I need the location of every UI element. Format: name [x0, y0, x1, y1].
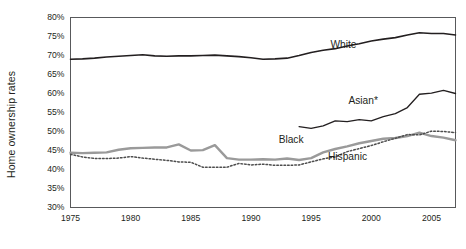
x-tick-label: 1975: [51, 213, 91, 223]
x-tick-label: 1995: [291, 213, 331, 223]
y-tick-label: 40%: [37, 164, 65, 174]
y-tick-label: 55%: [37, 107, 65, 117]
y-tick-label: 65%: [37, 69, 65, 79]
x-tick-label: 2000: [351, 213, 391, 223]
x-tick-label: 1980: [111, 213, 151, 223]
y-tick-label: 50%: [37, 126, 65, 136]
y-tick-label: 45%: [37, 145, 65, 155]
series-label-asian: Asian*: [348, 95, 377, 106]
chart-figure: Home ownership rates 30%35%40%45%50%55%6…: [0, 0, 466, 249]
y-tick-label: 35%: [37, 183, 65, 193]
y-tick-label: 70%: [37, 50, 65, 60]
series-label-white: White: [330, 39, 356, 50]
y-tick-label: 75%: [37, 31, 65, 41]
y-tick-label: 30%: [37, 202, 65, 212]
series-label-black: Black: [279, 134, 304, 145]
x-tick-label: 1985: [171, 213, 211, 223]
x-tick-label: 1990: [231, 213, 271, 223]
x-tick-label: 2005: [411, 213, 451, 223]
y-tick-label: 60%: [37, 88, 65, 98]
y-tick-label: 80%: [37, 12, 65, 22]
series-label-hispanic: Hispanic: [328, 151, 367, 162]
